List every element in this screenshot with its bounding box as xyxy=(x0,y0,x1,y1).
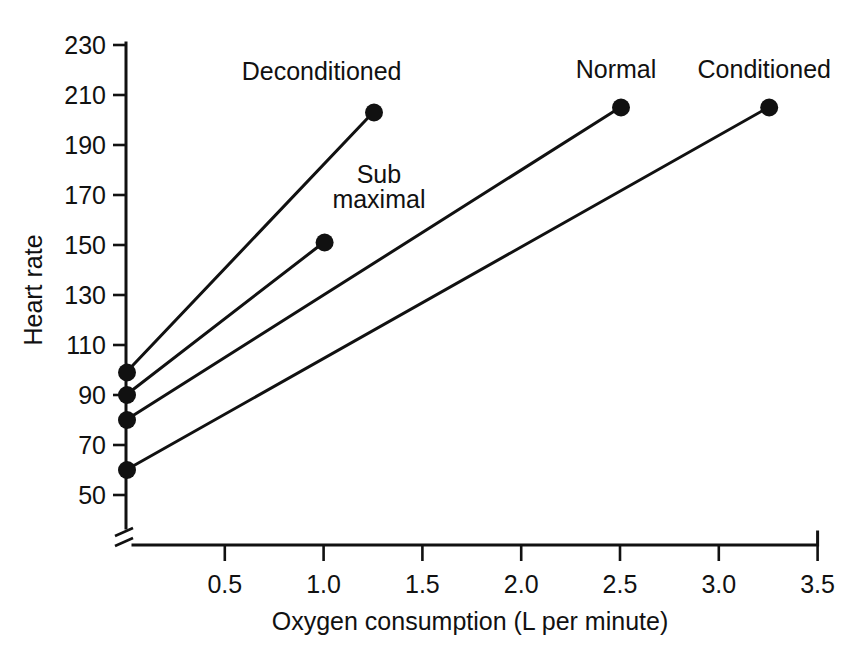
x-axis-tick-label: 3.0 xyxy=(701,570,736,598)
series-line-sub-maximal xyxy=(126,243,324,396)
y-axis-tick-label: 90 xyxy=(78,381,106,409)
y-axis-tick-label: 210 xyxy=(64,81,106,109)
y-axis-tick-label: 170 xyxy=(64,181,106,209)
y-axis-tick-label: 130 xyxy=(64,281,106,309)
series-line-normal xyxy=(126,108,620,421)
data-point-marker xyxy=(612,99,630,117)
axis-break-mark xyxy=(115,528,133,546)
x-axis-title: Oxygen consumption (L per minute) xyxy=(272,607,668,635)
series-label-conditioned: Conditioned xyxy=(698,55,831,83)
data-point-marker xyxy=(118,386,136,404)
x-axis-tick-label: 3.5 xyxy=(800,570,835,598)
series-layer xyxy=(126,108,768,471)
data-point-marker xyxy=(365,104,383,122)
y-axis-tick-label: 190 xyxy=(64,131,106,159)
series-line-conditioned xyxy=(126,108,768,471)
data-point-marker xyxy=(118,461,136,479)
series-label-sub-maximal: Sub xyxy=(357,160,401,188)
series-label-deconditioned: Deconditioned xyxy=(242,57,402,85)
series-labels-layer: DeconditionedSubmaximalNormalConditioned xyxy=(242,55,831,213)
ticks-layer xyxy=(113,45,818,561)
chart-figure: 5070901101301501701902102300.51.01.52.02… xyxy=(0,0,860,648)
data-point-marker xyxy=(118,364,136,382)
y-axis-tick-label: 230 xyxy=(64,31,106,59)
data-point-marker xyxy=(760,99,778,117)
series-label-normal: Normal xyxy=(576,55,657,83)
data-point-marker xyxy=(118,411,136,429)
x-axis-tick-label: 0.5 xyxy=(207,570,242,598)
x-axis-line xyxy=(133,532,818,545)
y-axis-tick-label: 50 xyxy=(78,481,106,509)
y-axis-tick-label: 110 xyxy=(66,331,106,359)
heart-rate-vs-oxygen-line-chart: 5070901101301501701902102300.51.01.52.02… xyxy=(0,0,860,648)
data-point-marker xyxy=(316,234,334,252)
axis-break-slash-1 xyxy=(115,528,133,536)
x-axis-tick-label: 1.0 xyxy=(306,570,341,598)
series-line-deconditioned xyxy=(126,113,373,373)
y-axis-title: Heart rate xyxy=(19,234,47,345)
x-axis-tick-label: 2.0 xyxy=(504,570,539,598)
axis-break-slash-2 xyxy=(115,538,133,546)
x-axis-tick-label: 1.5 xyxy=(405,570,440,598)
axes-layer xyxy=(115,43,818,546)
y-axis-tick-label: 150 xyxy=(64,231,106,259)
x-axis-tick-label: 2.5 xyxy=(603,570,638,598)
y-axis-tick-label: 70 xyxy=(78,431,106,459)
series-label-sub-maximal: maximal xyxy=(332,185,425,213)
